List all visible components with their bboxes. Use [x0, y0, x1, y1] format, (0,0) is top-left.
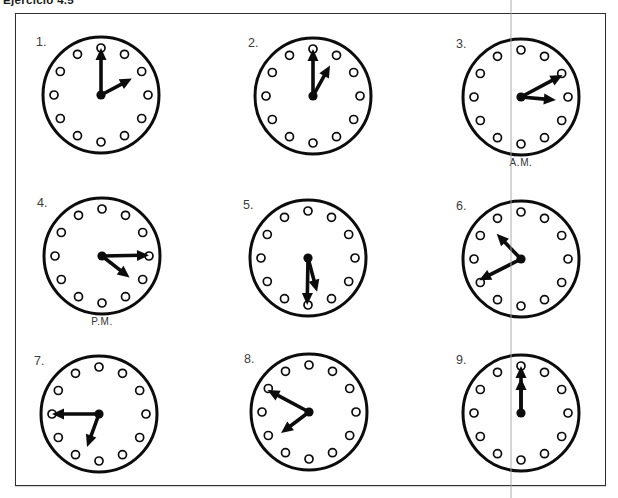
center-pin	[516, 408, 525, 417]
center-pin	[303, 253, 312, 262]
meridiem-label: A.M.	[453, 157, 589, 168]
clock-6: 6.	[453, 191, 589, 337]
center-pin	[304, 407, 313, 416]
clock-face	[34, 188, 170, 324]
center-pin	[308, 91, 317, 100]
clock-face	[241, 344, 377, 480]
clock-face	[245, 28, 381, 164]
clock-5: 5.	[240, 190, 376, 336]
center-pin	[516, 92, 525, 101]
clock-8: 8.	[241, 344, 377, 490]
center-pin	[96, 90, 105, 99]
clock-2: 2.	[245, 28, 381, 174]
clock-1: 1.	[33, 27, 169, 173]
meridiem-label: P.M.	[34, 316, 170, 327]
clock-9: 9.	[453, 345, 589, 491]
clock-face	[453, 345, 589, 481]
clock-4: 4.P.M.	[34, 188, 170, 334]
clock-3: 3.A.M.	[453, 29, 589, 175]
worksheet-page: { "page": { "title": "Ejercicio 4.5", "b…	[0, 0, 618, 498]
clock-face	[453, 191, 589, 327]
clock-face	[453, 29, 589, 165]
center-pin	[94, 409, 103, 418]
center-pin	[97, 251, 106, 260]
clock-face	[240, 190, 376, 326]
clock-face	[33, 27, 169, 163]
worksheet-title: Ejercicio 4.5	[3, 0, 74, 6]
clock-7: 7.	[31, 346, 167, 492]
center-pin	[516, 254, 525, 263]
clock-face	[31, 346, 167, 482]
